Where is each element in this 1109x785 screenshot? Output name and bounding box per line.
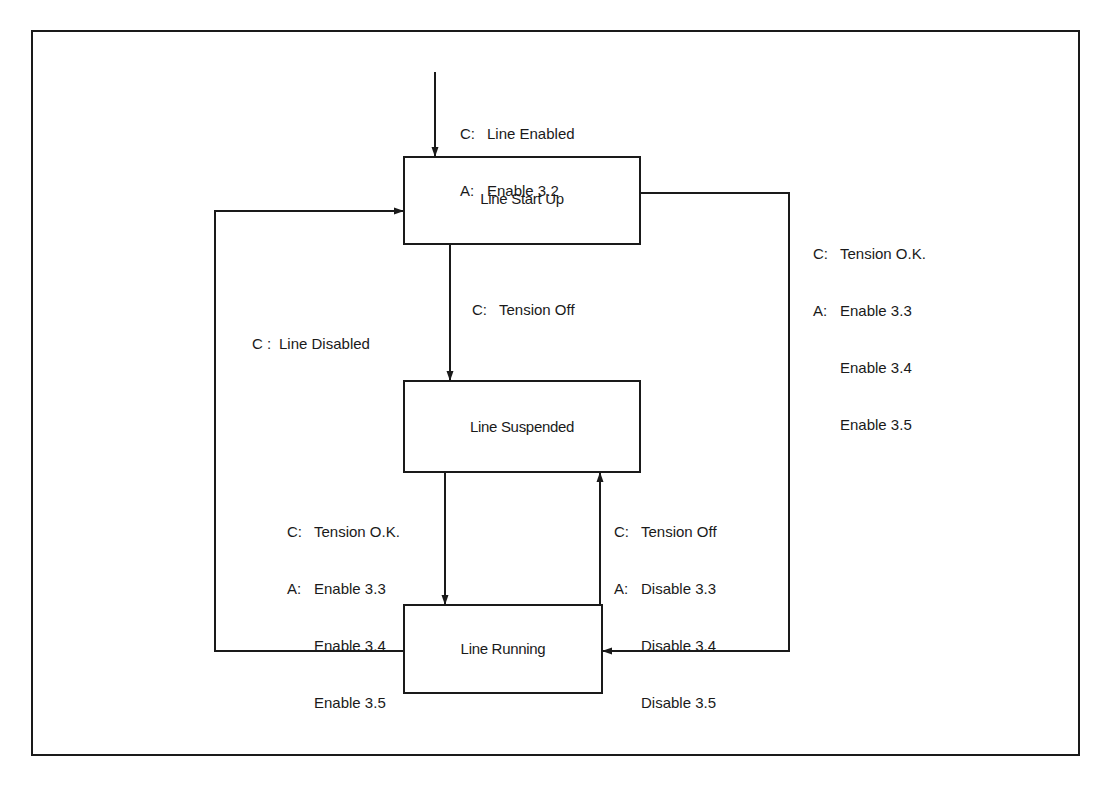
action-prefix: A: [287,579,314,598]
condition-prefix: C: [460,124,487,143]
transition-label-start-to-suspended: C:Tension Off [472,262,575,338]
action-prefix: A: [460,181,487,200]
transition-label-start-to-running: C:Tension O.K. A:Enable 3.3 Enable 3.4 E… [813,206,926,453]
action-prefix: A: [614,579,641,598]
action-text: Enable 3.4 [314,637,386,654]
transition-label-entry: C:Line Enabled A:Enable 3.2 [460,86,575,219]
condition-text: Line Enabled [487,125,575,142]
condition-prefix: C: [614,522,641,541]
action-prefix: A: [813,301,840,320]
transition-label-suspended-to-running: C:Tension O.K. A:Enable 3.3 Enable 3.4 E… [287,484,400,731]
action-text: Disable 3.3 [641,580,716,597]
condition-text: Tension O.K. [840,245,926,262]
action-text: Disable 3.4 [641,637,716,654]
action-text: Enable 3.3 [314,580,386,597]
state-label-running: Line Running [404,640,602,657]
condition-prefix: C: [287,522,314,541]
state-label-suspended: Line Suspended [404,418,640,435]
condition-prefix: C: [472,300,499,319]
condition-text: Tension Off [641,523,717,540]
action-text: Enable 3.5 [314,694,386,711]
action-text: Enable 3.4 [840,359,912,376]
condition-prefix: C : [252,334,279,353]
action-text: Enable 3.5 [840,416,912,433]
condition-text: Tension O.K. [314,523,400,540]
transition-label-running-to-suspended: C:Tension Off A:Disable 3.3 Disable 3.4 … [614,484,717,731]
condition-prefix: C: [813,244,840,263]
condition-text: Tension Off [499,301,575,318]
condition-text: Line Disabled [279,335,370,352]
action-text: Enable 3.3 [840,302,912,319]
action-text: Enable 3.2 [487,182,559,199]
action-text: Disable 3.5 [641,694,716,711]
transition-label-running-to-start: C :Line Disabled [252,296,370,372]
